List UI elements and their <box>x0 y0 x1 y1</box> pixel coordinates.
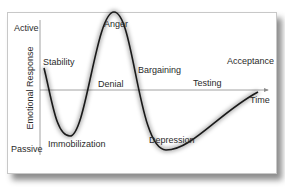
stage-immobilization: Immobilization <box>48 139 106 149</box>
passive-label: Passive <box>11 144 43 154</box>
active-label: Active <box>14 23 39 33</box>
stage-anger: Anger <box>104 19 128 29</box>
stage-denial: Denial <box>98 79 124 89</box>
stage-acceptance: Acceptance <box>227 56 274 66</box>
time-label: Time <box>250 95 270 105</box>
stage-depression: Depression <box>149 135 195 145</box>
stage-bargaining: Bargaining <box>138 65 181 75</box>
y-axis-title: Emotional Response <box>25 46 35 129</box>
stage-stability: Stability <box>43 57 75 67</box>
stage-testing: Testing <box>193 78 222 88</box>
change-curve-diagram: Active Passive Emotional Response Time S… <box>0 0 285 188</box>
